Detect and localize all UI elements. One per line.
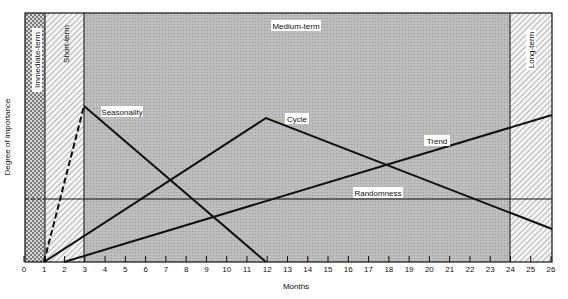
x-tick-label: 2 <box>62 265 67 274</box>
label-immediate-term: Immediate-term <box>32 28 42 92</box>
x-tick-label: 1 <box>42 265 47 274</box>
x-tick-label: 17 <box>364 265 373 274</box>
label-cycle: Cycle <box>285 113 309 124</box>
x-axis-title: Months <box>283 282 309 291</box>
x-tick-label: 25 <box>526 265 535 274</box>
label-short-term: Short-term <box>62 25 71 63</box>
svg-text:Cycle: Cycle <box>287 115 308 124</box>
label-medium-term: Medium-term <box>271 20 321 31</box>
x-tick-label: 8 <box>184 265 189 274</box>
x-tick-label: 9 <box>204 265 209 274</box>
x-tick-label: 4 <box>103 265 108 274</box>
y-axis-title: Degree of importance <box>3 98 12 175</box>
x-tick-label: 6 <box>143 265 148 274</box>
x-tick-label: 26 <box>547 265 556 274</box>
x-tick-label: 11 <box>243 265 252 274</box>
label-trend: Trend <box>424 135 450 146</box>
x-tick-label: 13 <box>283 265 292 274</box>
x-tick-label: 10 <box>222 265 231 274</box>
x-tick-label: 14 <box>303 265 312 274</box>
svg-text:Medium-term: Medium-term <box>272 22 319 31</box>
svg-text:Seasonality: Seasonality <box>101 108 142 117</box>
x-tick-label: 22 <box>465 265 474 274</box>
label-long-term: Long-term <box>526 30 536 70</box>
x-tick-label: 15 <box>324 265 333 274</box>
x-tick-label: 24 <box>506 265 515 274</box>
x-tick-label: 16 <box>344 265 353 274</box>
x-tick-label: 20 <box>425 265 434 274</box>
svg-text:Immediate-term: Immediate-term <box>33 32 42 88</box>
svg-text:Short-term: Short-term <box>62 25 71 63</box>
svg-text:Randomness: Randomness <box>354 189 401 198</box>
x-tick-label: 12 <box>263 265 272 274</box>
x-tick-label: 19 <box>405 265 414 274</box>
label-seasonality: Seasonality <box>101 106 143 117</box>
x-tick-label: 18 <box>384 265 393 274</box>
svg-text:Long-term: Long-term <box>527 31 536 68</box>
x-tick-label: 7 <box>164 265 169 274</box>
x-tick-label: 21 <box>445 265 454 274</box>
x-tick-label: 5 <box>123 265 128 274</box>
time-horizon-chart: Immediate-term Short-term Medium-term Lo… <box>0 0 568 299</box>
label-randomness: Randomness <box>353 187 403 198</box>
svg-text:Trend: Trend <box>427 137 448 146</box>
x-tick-label: 23 <box>486 265 495 274</box>
x-tick-label: 0 <box>22 265 27 274</box>
x-tick-label: 3 <box>83 265 88 274</box>
